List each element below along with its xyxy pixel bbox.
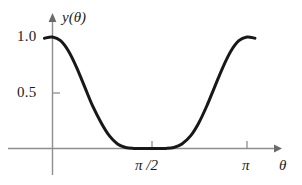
x-axis-tick-label-pi: π <box>242 158 250 173</box>
x-axis-title: θ <box>279 158 286 173</box>
function-plot-figure: 1.0 0.5 π /2 π y(θ) θ <box>0 0 302 185</box>
y-axis-tick-label-1-0: 1.0 <box>17 29 37 44</box>
x-axis-arrow-icon <box>274 145 282 153</box>
y-axis-tick-label-0-5: 0.5 <box>17 85 37 100</box>
y-axis-title: y(θ) <box>62 10 86 25</box>
data-curve <box>44 37 255 149</box>
y-axis-arrow-icon <box>49 13 57 22</box>
x-axis-tick-label-pi-over-2: π /2 <box>135 158 158 173</box>
